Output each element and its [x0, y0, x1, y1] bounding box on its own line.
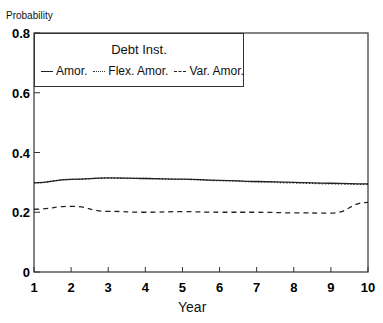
legend: Debt Inst. Amor. Flex. Amor. Var. Amor.	[34, 33, 244, 87]
x-tick-label: 8	[290, 280, 297, 295]
y-tick-label: 0	[23, 265, 30, 280]
x-tick-label: 9	[327, 280, 334, 295]
dotted-line-swatch-icon	[93, 71, 105, 72]
y-tick-label: 0.4	[12, 146, 31, 161]
series-line-var-amor	[34, 202, 368, 213]
series-line-amor	[34, 178, 368, 184]
y-tick-label: 0.2	[12, 205, 30, 220]
legend-item-amor: Amor.	[41, 64, 87, 78]
legend-item-flex-amor: Flex. Amor.	[93, 64, 168, 78]
x-tick-label: 3	[105, 280, 112, 295]
y-tick-label: 0.8	[12, 26, 30, 41]
x-tick-label: 1	[30, 280, 37, 295]
x-tick-label: 6	[216, 280, 223, 295]
legend-item-var-amor: Var. Amor.	[174, 64, 243, 78]
x-tick-label: 2	[67, 280, 74, 295]
x-tick-label: 7	[253, 280, 260, 295]
x-tick-label: 10	[361, 280, 375, 295]
legend-title: Debt Inst.	[35, 42, 243, 57]
solid-line-swatch-icon	[41, 71, 53, 72]
x-tick-label: 4	[142, 280, 150, 295]
x-tick-label: 5	[179, 280, 186, 295]
y-tick-label: 0.6	[12, 86, 30, 101]
dashed-line-swatch-icon	[174, 71, 186, 72]
